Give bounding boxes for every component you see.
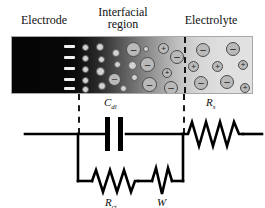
ion-negative: – — [226, 42, 240, 56]
ion-small — [82, 66, 89, 73]
label-rs: Rs — [206, 96, 215, 111]
ion-charge-symbol: – — [168, 83, 174, 93]
label-rct-sub: ct — [112, 203, 117, 208]
ion-small — [96, 43, 104, 51]
ion-charge-symbol: + — [215, 62, 220, 70]
electrode-surface-charge — [64, 45, 75, 48]
equivalent-circuit-diagram: Cdl Rs Rct W — [0, 94, 265, 208]
ion-charge-symbol: + — [241, 61, 246, 69]
electrode-surface-charge — [64, 87, 75, 90]
label-w-main: W — [157, 196, 166, 208]
ion-small — [82, 77, 89, 84]
ion-charge-symbol: – — [174, 52, 180, 62]
ion-positive: + — [212, 61, 223, 72]
ion-negative: – — [164, 81, 178, 94]
ion-negative: – — [140, 57, 155, 72]
ion-charge-symbol: – — [145, 59, 151, 69]
ion-negative: – — [108, 73, 121, 86]
region-label-electrolyte: Electrolyte — [168, 14, 254, 26]
ion-small — [98, 56, 105, 63]
ion-charge-symbol: – — [147, 79, 153, 89]
ion-small — [82, 55, 89, 62]
ion-charge-symbol: – — [200, 45, 206, 55]
label-rs-sub: s — [213, 103, 216, 111]
ion-small — [98, 82, 106, 90]
resistor-rct-symbol — [92, 170, 138, 192]
ion-positive: + — [188, 61, 199, 72]
ion-small — [112, 49, 120, 57]
region-label-interfacial: Interfacial region — [84, 6, 162, 30]
label-cdl: Cdl — [104, 96, 117, 111]
label-rct-main: R — [105, 196, 112, 208]
electrode-surface-charge — [64, 56, 75, 59]
interface-boundary-dashed-line — [184, 37, 186, 93]
ion-small — [143, 46, 149, 52]
ion-small — [120, 85, 127, 92]
ion-charge-symbol: – — [131, 44, 137, 54]
ion-positive: + — [240, 83, 250, 93]
ion-small — [128, 61, 137, 70]
interface-diagram-panel: – – – – + + – – – – + + + – – + — [11, 36, 253, 94]
region-label-electrode: Electrode — [8, 14, 80, 26]
electrode-surface-charge — [64, 67, 75, 70]
ion-charge-symbol: – — [224, 77, 230, 87]
ion-negative: – — [220, 75, 234, 89]
label-rs-main: R — [206, 96, 213, 108]
ion-charge-symbol: + — [165, 69, 170, 77]
ion-small — [96, 67, 105, 76]
ion-positive: + — [162, 68, 172, 78]
figure-root: Electrode Interfacial region Electrolyte… — [0, 0, 265, 208]
label-cdl-sub: dl — [111, 103, 116, 111]
region-label-electrode-text: Electrode — [21, 13, 67, 27]
ion-charge-symbol: + — [161, 44, 166, 52]
ion-negative: – — [142, 77, 157, 92]
warburg-w-symbol — [152, 168, 172, 194]
label-rct: Rct — [105, 196, 117, 208]
ion-charge-symbol: – — [230, 44, 236, 54]
ion-small — [131, 74, 138, 81]
label-w: W — [157, 196, 166, 208]
ion-positive: + — [158, 43, 169, 54]
ion-negative: – — [126, 42, 141, 57]
ion-small — [82, 86, 89, 93]
region-label-interfacial-line2: region — [84, 18, 162, 30]
electrode-surface-charge — [64, 78, 75, 81]
ion-charge-symbol: + — [191, 62, 196, 70]
ion-charge-symbol: + — [243, 84, 248, 92]
ion-charge-symbol: – — [198, 78, 204, 88]
ion-negative: – — [170, 50, 184, 64]
region-label-electrolyte-text: Electrolyte — [185, 13, 238, 27]
ion-charge-symbol: – — [112, 75, 117, 84]
ion-positive: + — [238, 60, 248, 70]
ion-negative: – — [196, 43, 210, 57]
ion-small — [114, 61, 121, 68]
resistor-rs-symbol — [183, 122, 243, 146]
circuit-svg — [0, 94, 265, 208]
ion-small — [82, 44, 89, 51]
ion-negative: – — [194, 76, 208, 90]
